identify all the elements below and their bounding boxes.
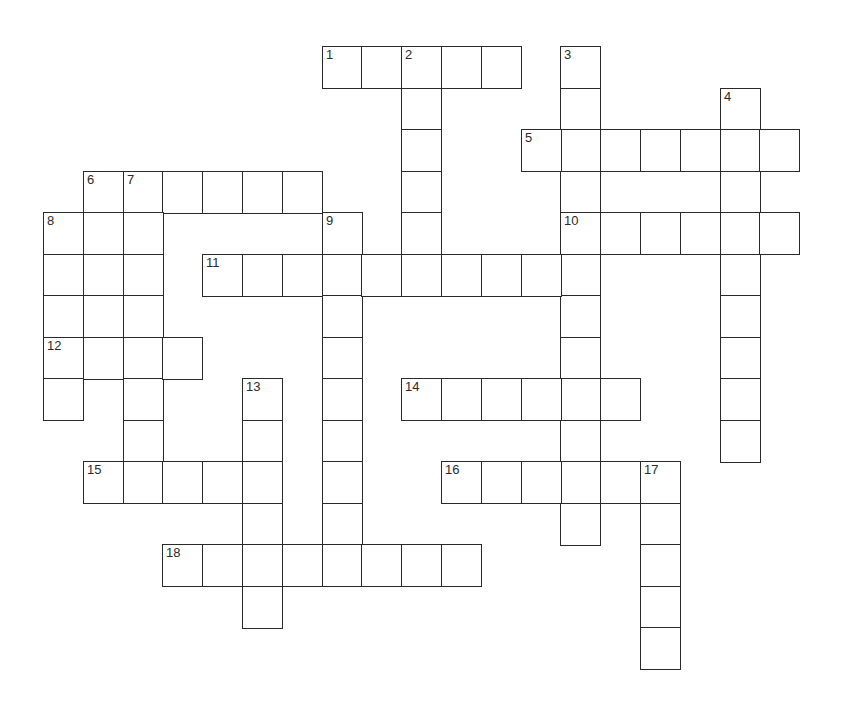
crossword-cell[interactable] <box>600 461 641 504</box>
crossword-cell[interactable] <box>600 212 641 255</box>
crossword-cell[interactable] <box>322 461 363 504</box>
crossword-cell[interactable] <box>322 295 363 338</box>
crossword-cell[interactable]: 10 <box>560 212 601 255</box>
crossword-cell[interactable] <box>600 129 641 172</box>
crossword-cell[interactable] <box>202 171 243 214</box>
crossword-cell[interactable] <box>560 337 601 380</box>
crossword-cell[interactable] <box>560 461 601 504</box>
crossword-cell[interactable] <box>322 337 363 380</box>
crossword-cell[interactable] <box>83 337 124 380</box>
crossword-cell[interactable] <box>521 461 562 504</box>
crossword-cell[interactable] <box>123 337 164 380</box>
crossword-cell[interactable]: 3 <box>560 46 601 89</box>
crossword-cell[interactable] <box>640 627 681 670</box>
crossword-cell[interactable] <box>481 254 522 297</box>
crossword-cell[interactable] <box>481 46 522 89</box>
crossword-cell[interactable] <box>560 503 601 546</box>
crossword-cell[interactable] <box>720 212 761 255</box>
crossword-cell[interactable] <box>521 254 562 297</box>
crossword-cell[interactable] <box>361 254 402 297</box>
crossword-cell[interactable] <box>361 46 402 89</box>
crossword-cell[interactable] <box>322 420 363 463</box>
crossword-cell[interactable] <box>322 503 363 546</box>
crossword-cell[interactable] <box>242 420 283 463</box>
crossword-cell[interactable] <box>322 254 363 297</box>
crossword-cell[interactable] <box>83 295 124 338</box>
crossword-cell[interactable]: 8 <box>43 212 84 255</box>
crossword-cell[interactable] <box>162 337 203 380</box>
crossword-cell[interactable]: 7 <box>123 171 164 214</box>
crossword-cell[interactable] <box>560 171 601 214</box>
crossword-cell[interactable] <box>720 420 761 463</box>
crossword-cell[interactable] <box>123 378 164 421</box>
crossword-cell[interactable] <box>560 129 601 172</box>
crossword-cell[interactable]: 13 <box>242 378 283 421</box>
crossword-cell[interactable] <box>401 544 442 587</box>
crossword-cell[interactable] <box>83 212 124 255</box>
crossword-cell[interactable]: 14 <box>401 378 442 421</box>
crossword-cell[interactable] <box>242 461 283 504</box>
crossword-cell[interactable] <box>162 171 203 214</box>
crossword-cell[interactable] <box>640 586 681 629</box>
crossword-cell[interactable]: 12 <box>43 337 84 380</box>
crossword-cell[interactable] <box>759 129 800 172</box>
crossword-cell[interactable] <box>441 46 482 89</box>
crossword-cell[interactable] <box>401 129 442 172</box>
crossword-cell[interactable]: 4 <box>720 88 761 131</box>
crossword-cell[interactable] <box>123 461 164 504</box>
crossword-cell[interactable] <box>282 171 323 214</box>
crossword-cell[interactable] <box>242 586 283 629</box>
crossword-cell[interactable]: 15 <box>83 461 124 504</box>
crossword-cell[interactable] <box>720 129 761 172</box>
crossword-cell[interactable] <box>202 544 243 587</box>
crossword-cell[interactable] <box>560 88 601 131</box>
crossword-cell[interactable] <box>43 254 84 297</box>
crossword-cell[interactable] <box>123 212 164 255</box>
crossword-cell[interactable] <box>401 88 442 131</box>
crossword-cell[interactable] <box>202 461 243 504</box>
crossword-cell[interactable] <box>441 544 482 587</box>
crossword-cell[interactable] <box>759 212 800 255</box>
crossword-cell[interactable] <box>43 295 84 338</box>
crossword-cell[interactable]: 11 <box>202 254 243 297</box>
crossword-cell[interactable]: 6 <box>83 171 124 214</box>
crossword-cell[interactable] <box>720 337 761 380</box>
crossword-cell[interactable] <box>441 254 482 297</box>
crossword-cell[interactable] <box>242 171 283 214</box>
crossword-cell[interactable] <box>640 212 681 255</box>
crossword-cell[interactable]: 9 <box>322 212 363 255</box>
crossword-cell[interactable] <box>282 544 323 587</box>
crossword-cell[interactable] <box>640 503 681 546</box>
crossword-cell[interactable]: 17 <box>640 461 681 504</box>
crossword-cell[interactable] <box>123 420 164 463</box>
crossword-cell[interactable] <box>361 544 402 587</box>
crossword-cell[interactable] <box>560 378 601 421</box>
crossword-cell[interactable]: 2 <box>401 46 442 89</box>
crossword-cell[interactable] <box>242 544 283 587</box>
crossword-cell[interactable] <box>401 212 442 255</box>
crossword-cell[interactable] <box>401 254 442 297</box>
crossword-cell[interactable] <box>282 254 323 297</box>
crossword-cell[interactable] <box>600 378 641 421</box>
crossword-cell[interactable]: 5 <box>521 129 562 172</box>
crossword-cell[interactable] <box>123 295 164 338</box>
crossword-cell[interactable] <box>640 129 681 172</box>
crossword-cell[interactable] <box>680 212 721 255</box>
crossword-cell[interactable] <box>242 503 283 546</box>
crossword-cell[interactable] <box>322 544 363 587</box>
crossword-cell[interactable] <box>481 378 522 421</box>
crossword-cell[interactable] <box>560 420 601 463</box>
crossword-cell[interactable] <box>720 295 761 338</box>
crossword-cell[interactable] <box>242 254 283 297</box>
crossword-cell[interactable] <box>401 171 442 214</box>
crossword-cell[interactable] <box>720 254 761 297</box>
crossword-cell[interactable] <box>521 378 562 421</box>
crossword-cell[interactable] <box>481 461 522 504</box>
crossword-cell[interactable] <box>441 378 482 421</box>
crossword-cell[interactable] <box>640 544 681 587</box>
crossword-cell[interactable]: 18 <box>162 544 203 587</box>
crossword-cell[interactable] <box>680 129 721 172</box>
crossword-cell[interactable] <box>162 461 203 504</box>
crossword-cell[interactable] <box>322 378 363 421</box>
crossword-cell[interactable] <box>720 171 761 214</box>
